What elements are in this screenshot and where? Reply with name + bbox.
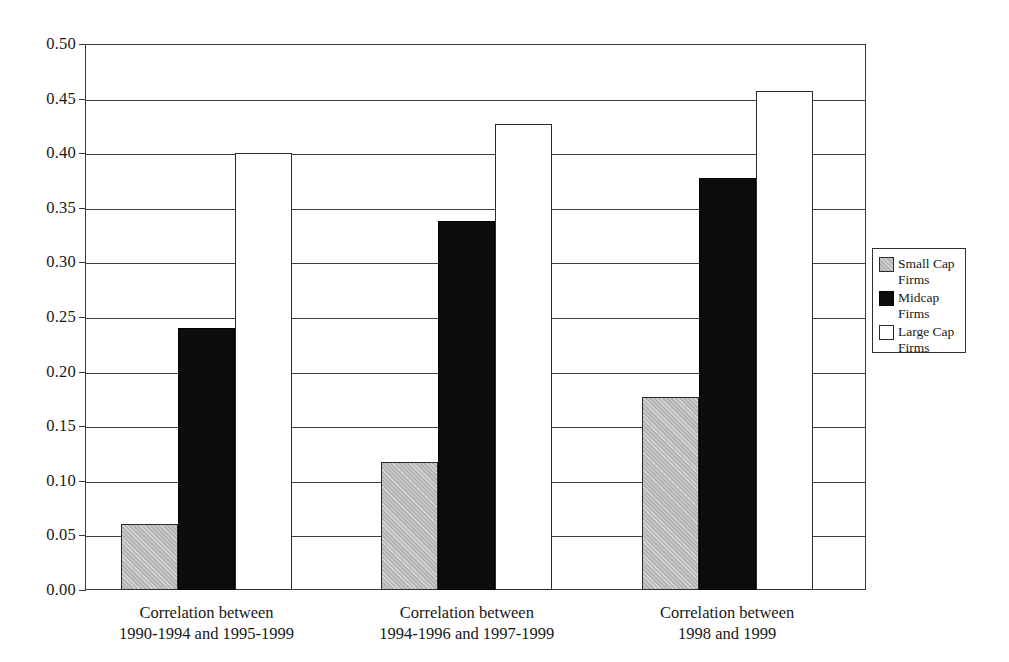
y-axis-tick-label: 0.50 — [10, 36, 76, 53]
y-axis-tick-label: 0.40 — [10, 145, 76, 162]
bars-layer — [85, 44, 866, 590]
x-axis-category-label: Correlation between1990-1994 and 1995-19… — [77, 602, 337, 644]
legend-item: Midcap Firms — [879, 290, 965, 316]
bar — [438, 221, 495, 590]
x-axis-category-label-line: Correlation between — [77, 602, 337, 623]
y-axis-tick-label: 0.25 — [10, 309, 76, 326]
bar — [756, 91, 813, 590]
legend: Small Cap FirmsMidcap FirmsLarge Cap Fir… — [872, 248, 966, 353]
bar-chart-figure: 0.500.450.400.350.300.250.200.150.100.05… — [0, 0, 1009, 662]
x-axis-category-label-line: Correlation between — [337, 602, 597, 623]
y-axis-tick-label: 0.30 — [10, 254, 76, 271]
x-axis-category-label-line: 1994-1996 and 1997-1999 — [337, 623, 597, 644]
bar — [121, 524, 178, 590]
y-axis-tick-label: 0.10 — [10, 473, 76, 490]
y-axis-tick-label: 0.45 — [10, 91, 76, 108]
legend-swatch-midcap — [879, 291, 894, 306]
legend-item: Small Cap Firms — [879, 256, 965, 282]
bar — [235, 153, 292, 590]
legend-swatch-large-cap — [879, 325, 894, 340]
bar — [178, 328, 235, 590]
y-axis-tick-label: 0.05 — [10, 527, 76, 544]
bar — [642, 397, 699, 590]
x-axis-category-label-line: Correlation between — [597, 602, 857, 623]
bar — [495, 124, 552, 590]
legend-item: Large Cap Firms — [879, 324, 965, 350]
y-axis-tick-label: 0.35 — [10, 200, 76, 217]
bar — [699, 178, 756, 590]
y-axis-tick-label: 0.15 — [10, 418, 76, 435]
x-axis-category-label: Correlation between1994-1996 and 1997-19… — [337, 602, 597, 644]
y-axis-tick-label: 0.00 — [10, 582, 76, 599]
legend-label: Midcap Firms — [898, 290, 965, 321]
x-axis-category-label-line: 1998 and 1999 — [597, 623, 857, 644]
x-axis-category-label-line: 1990-1994 and 1995-1999 — [77, 623, 337, 644]
legend-label: Small Cap Firms — [898, 256, 955, 287]
legend-label: Large Cap Firms — [898, 324, 954, 355]
x-axis-category-label: Correlation between1998 and 1999 — [597, 602, 857, 644]
bar — [381, 462, 438, 590]
legend-swatch-small-cap — [879, 257, 894, 272]
y-axis-tick-label: 0.20 — [10, 364, 76, 381]
